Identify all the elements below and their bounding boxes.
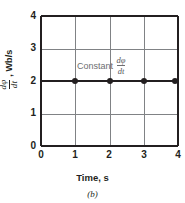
data-point-marker	[72, 78, 78, 84]
figure-panel-b: dφ dt , Wb/s 4 3 2 1 0 Constant dφ dt	[0, 0, 185, 203]
y-axis-title-fraction: dφ dt	[0, 79, 19, 91]
y-tick-label-1: 1	[22, 108, 36, 118]
x-axis-title: Time, s	[0, 172, 185, 183]
x-tick-label-0: 0	[34, 150, 48, 160]
y-tick-label-4: 4	[22, 11, 36, 21]
constant-rate-annotation: Constant dφ dt	[77, 56, 126, 75]
annotation-numerator: dφ	[116, 56, 127, 65]
annotation-text: Constant	[77, 61, 113, 71]
figure-caption: (b)	[0, 189, 185, 199]
data-point-marker	[172, 78, 178, 84]
data-point-marker	[107, 78, 113, 84]
axis-bottom-spine	[41, 145, 178, 147]
data-point-marker	[141, 78, 147, 84]
y-axis-title-unit: , Wb/s	[4, 50, 14, 77]
annotation-fraction: dφ dt	[116, 56, 127, 75]
x-tick-label-3: 3	[137, 150, 151, 160]
axis-top-spine	[41, 15, 178, 17]
y-axis-title-numerator: dφ	[0, 79, 9, 91]
y-axis-title-denominator: dt	[9, 80, 20, 89]
annotation-denominator: dt	[117, 65, 126, 75]
y-tick-label-3: 3	[22, 43, 36, 53]
x-tick-label-1: 1	[68, 150, 82, 160]
plot-area: Constant dφ dt	[41, 16, 178, 146]
x-tick-label-2: 2	[102, 150, 116, 160]
x-tick-label-4: 4	[171, 150, 185, 160]
y-tick-label-2: 2	[22, 76, 36, 86]
